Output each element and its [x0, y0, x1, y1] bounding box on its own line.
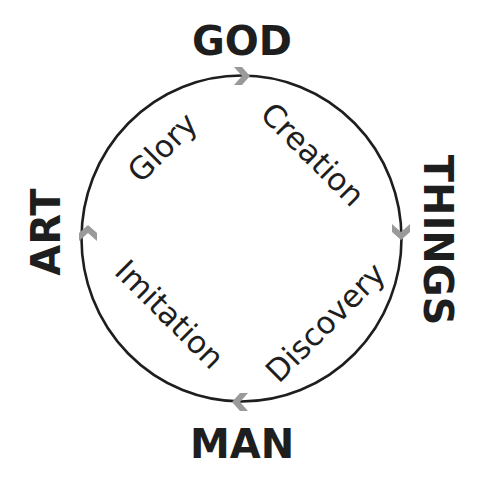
- relation-creation: Creation: [254, 95, 372, 213]
- node-man: MAN: [190, 421, 294, 467]
- cycle-diagram: GOD THINGS MAN ART Glory Creation Discov…: [0, 0, 482, 490]
- relation-imitation: Imitation: [108, 253, 231, 376]
- node-art: ART: [23, 188, 69, 276]
- cycle-circle: [82, 76, 402, 402]
- node-god: GOD: [192, 18, 292, 64]
- relation-discovery: Discovery: [258, 255, 392, 389]
- node-things: THINGS: [415, 155, 461, 326]
